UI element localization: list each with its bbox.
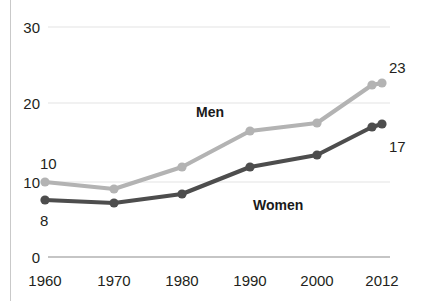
data-point-women-1990 bbox=[245, 162, 254, 171]
data-point-women-2010 bbox=[367, 122, 376, 131]
y-tick-label-0: 0 bbox=[6, 250, 40, 265]
data-point-women-1960 bbox=[40, 195, 49, 204]
x-tick-label-1980: 1980 bbox=[153, 273, 211, 288]
x-tick-label-2000: 2000 bbox=[288, 273, 346, 288]
value-label-women-end: 17 bbox=[389, 139, 406, 154]
value-label-men-end: 23 bbox=[389, 60, 406, 75]
line-chart: 30 20 10 0 1960 1970 1980 1990 2000 2012… bbox=[0, 0, 424, 301]
series-line-men bbox=[45, 83, 382, 189]
data-point-men-1970 bbox=[109, 184, 118, 193]
y-tick-label-20: 20 bbox=[6, 96, 40, 111]
data-point-women-1980 bbox=[177, 189, 186, 198]
series-line-women bbox=[45, 124, 382, 203]
data-point-women-1970 bbox=[109, 198, 118, 207]
x-tick-label-1960: 1960 bbox=[16, 273, 74, 288]
data-point-men-1980 bbox=[177, 162, 186, 171]
y-tick-label-10: 10 bbox=[6, 175, 40, 190]
y-tick-label-30: 30 bbox=[6, 20, 40, 35]
data-point-men-2012 bbox=[377, 78, 386, 87]
data-point-women-2012 bbox=[377, 119, 386, 128]
value-label-men-start: 10 bbox=[40, 156, 57, 171]
x-tick-label-2012: 2012 bbox=[353, 273, 411, 288]
data-point-men-2010 bbox=[367, 80, 376, 89]
series-label-women: Women bbox=[253, 198, 303, 212]
series-label-men: Men bbox=[196, 105, 224, 119]
x-tick-label-1970: 1970 bbox=[85, 273, 143, 288]
x-tick-label-1990: 1990 bbox=[221, 273, 279, 288]
plot-area bbox=[0, 0, 424, 301]
value-label-women-start: 8 bbox=[40, 213, 48, 228]
data-point-men-1990 bbox=[245, 126, 254, 135]
data-point-women-2000 bbox=[312, 150, 321, 159]
data-point-men-1960 bbox=[40, 177, 49, 186]
data-point-men-2000 bbox=[312, 118, 321, 127]
